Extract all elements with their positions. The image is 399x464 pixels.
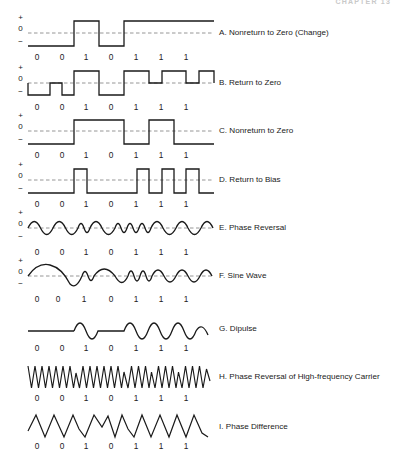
bit-label: 0 xyxy=(56,150,68,161)
waveform-row-g: 0 0 1 0 1 1 1 G. Dipulse xyxy=(0,305,399,357)
bit-label: 1 xyxy=(130,393,142,404)
bit-label: 1 xyxy=(80,393,92,404)
bit-label: 1 xyxy=(180,150,192,161)
bit-label: 1 xyxy=(130,441,142,452)
waveform-d-svg xyxy=(14,162,224,202)
waveform-g-svg xyxy=(14,309,224,351)
waveform-b-svg xyxy=(14,65,224,105)
bit-label: 1 xyxy=(155,441,167,452)
waveform-label-i: I. Phase Difference xyxy=(219,423,288,431)
waveform-label-e: E. Phase Reversal xyxy=(219,224,286,232)
bit-label: 1 xyxy=(80,150,92,161)
bit-label: 0 xyxy=(105,52,117,63)
bit-label: 0 xyxy=(31,52,43,63)
bit-label: 0 xyxy=(105,343,117,354)
bit-label: 0 xyxy=(56,393,68,404)
waveform-label-f: F. Sine Wave xyxy=(219,272,266,280)
waveform-e-svg xyxy=(14,210,224,250)
waveform-row-c: + 0 − 0 0 1 0 1 1 1 C. Nonreturn to Zero xyxy=(0,112,399,164)
bit-label: 1 xyxy=(155,150,167,161)
waveform-row-b: + 0 − 0 0 1 0 1 1 1 B. Return to Zero xyxy=(0,64,399,116)
waveform-row-i: 0 0 1 0 1 1 1 I. Phase Difference xyxy=(0,405,399,460)
bit-label: 1 xyxy=(80,343,92,354)
bit-label: 1 xyxy=(80,441,92,452)
waveform-row-e: + 0 − 0 0 1 0 1 1 1 E. Phase Reversal xyxy=(0,209,399,261)
bit-label: 0 xyxy=(31,393,43,404)
bit-label: 1 xyxy=(80,52,92,63)
bit-label: 1 xyxy=(130,343,142,354)
waveform-h-svg xyxy=(14,357,224,399)
chapter-header: CHAPTER 13 xyxy=(335,0,391,5)
bit-label: 0 xyxy=(56,52,68,63)
waveform-f-svg xyxy=(14,256,224,296)
bit-label: 0 xyxy=(52,294,64,305)
waveform-label-g: G. Dipulse xyxy=(219,325,257,333)
bit-label: 1 xyxy=(130,294,142,305)
bit-label: 0 xyxy=(56,343,68,354)
waveform-i-svg xyxy=(14,407,224,449)
bit-label: 1 xyxy=(130,150,142,161)
waveform-row-a: + 0 − 0 0 1 0 1 1 1 A. Nonreturn to Zero… xyxy=(0,14,399,66)
waveform-a-svg xyxy=(14,15,224,55)
bit-label: 1 xyxy=(155,52,167,63)
bit-label: 0 xyxy=(31,343,43,354)
waveform-label-a: A. Nonreturn to Zero (Change) xyxy=(219,29,329,37)
waveform-label-h: H. Phase Reversal of High-frequency Carr… xyxy=(219,373,380,381)
bit-label: 1 xyxy=(180,343,192,354)
bit-label: 1 xyxy=(155,294,167,305)
waveform-row-f: + 0 − 0 0 1 0 1 1 1 F. Sine Wave xyxy=(0,255,399,307)
bit-label: 1 xyxy=(180,441,192,452)
bit-label: 1 xyxy=(78,294,90,305)
bit-label: 0 xyxy=(105,393,117,404)
bit-label: 1 xyxy=(155,393,167,404)
waveform-row-h: 0 0 1 0 1 1 1 H. Phase Reversal of High-… xyxy=(0,355,399,407)
bit-label: 0 xyxy=(105,150,117,161)
waveform-figure: CHAPTER 13 + 0 − 0 0 1 0 1 1 1 A. Nonret… xyxy=(0,0,399,464)
bit-label: 0 xyxy=(56,441,68,452)
bit-label: 0 xyxy=(105,294,117,305)
waveform-label-c: C. Nonreturn to Zero xyxy=(219,127,293,135)
bit-label: 0 xyxy=(105,441,117,452)
waveform-row-d: + 0 − 0 0 1 0 1 1 1 D. Return to Bias xyxy=(0,161,399,213)
waveform-label-d: D. Return to Bias xyxy=(219,176,281,184)
bit-label: 1 xyxy=(180,52,192,63)
bit-label: 0 xyxy=(31,441,43,452)
bit-label: 1 xyxy=(180,294,192,305)
bit-label: 1 xyxy=(180,393,192,404)
waveform-c-svg xyxy=(14,113,224,153)
bit-label: 0 xyxy=(31,294,43,305)
bit-label: 1 xyxy=(130,52,142,63)
bit-label: 1 xyxy=(155,343,167,354)
bit-label: 0 xyxy=(31,150,43,161)
waveform-label-b: B. Return to Zero xyxy=(219,79,281,87)
